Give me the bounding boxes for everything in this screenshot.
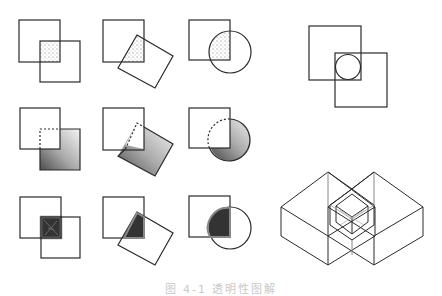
row2-square-circle: [189, 108, 251, 161]
two-squares-inscribed-circle: [309, 26, 387, 107]
row3-square-circle: [189, 196, 251, 249]
row1-square-square: [19, 20, 80, 82]
isometric-interlocking-boxes: [281, 172, 423, 265]
row1-square-circle: [189, 20, 251, 73]
row3-square-rotated-square: [103, 197, 173, 265]
row3-square-square: [20, 197, 80, 258]
figure-caption: 图 4-1 透明性图解: [0, 280, 442, 296]
row1-square-rotated-square: [103, 20, 173, 88]
row2-square-rotated-square: [103, 108, 173, 176]
row2-square-square: [20, 108, 80, 170]
